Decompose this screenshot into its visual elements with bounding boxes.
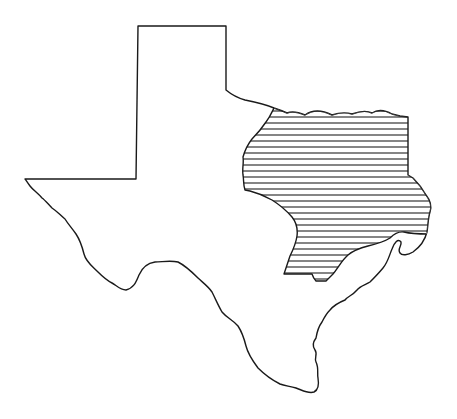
texas-map (0, 0, 457, 419)
